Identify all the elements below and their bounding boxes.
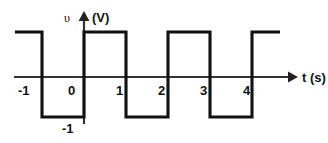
x-tick-label-2: 2 — [158, 83, 165, 98]
x-axis-label: t (s) — [302, 70, 326, 85]
square-wave-plot: υ (V) t (s) -1 0 1 2 3 4 -1 — [0, 0, 328, 143]
waveform-figure: υ (V) t (s) -1 0 1 2 3 4 -1 — [0, 0, 328, 143]
x-tick-label-0: 0 — [68, 83, 75, 98]
y-axis-unit-label: (V) — [92, 10, 109, 25]
y-axis-variable-symbol: υ — [64, 11, 70, 25]
right-arrow-icon — [288, 72, 298, 83]
x-axis — [14, 72, 298, 83]
x-tick-label-3: 3 — [200, 83, 207, 98]
up-arrow-icon — [79, 11, 90, 21]
x-tick-label-4: 4 — [243, 83, 251, 98]
y-tick-label-minus1: -1 — [62, 121, 74, 136]
x-tick-label-minus1: -1 — [18, 83, 30, 98]
waveform-trace — [15, 32, 280, 117]
x-tick-label-1: 1 — [116, 83, 123, 98]
